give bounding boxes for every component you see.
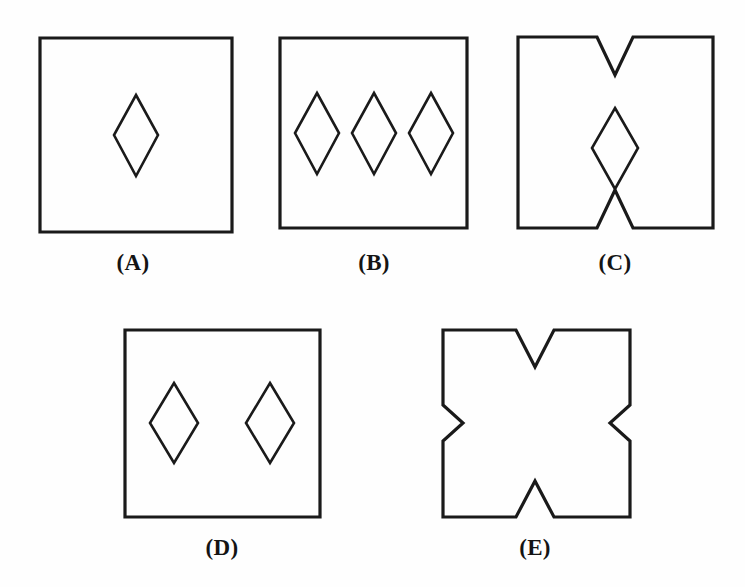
option-c-label: (C) — [599, 250, 632, 275]
option-d-label: (D) — [206, 535, 239, 560]
answer-options-figure: (A)(B)(C)(D)(E) — [0, 0, 745, 587]
option-e-label: (E) — [519, 535, 551, 560]
figure-container: (A)(B)(C)(D)(E) — [0, 0, 745, 587]
option-b-label: (B) — [358, 250, 390, 275]
option-a-label: (A) — [117, 250, 150, 275]
figure-background — [0, 0, 745, 587]
